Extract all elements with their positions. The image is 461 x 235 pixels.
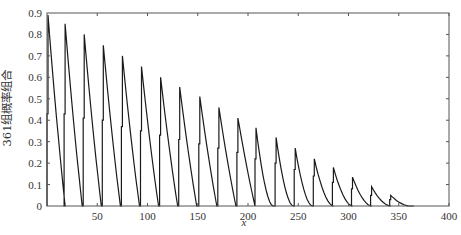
x-tick-label: 300	[340, 210, 357, 222]
x-tick-label: 400	[441, 210, 458, 222]
y-tick-label: 0.7	[28, 50, 42, 62]
chart-canvas: 50100150200250300350400 00.10.20.30.40.5…	[0, 0, 461, 235]
y-tick-label: 0.2	[28, 157, 42, 169]
sawtooth-line	[47, 15, 414, 206]
x-tick-label: 150	[190, 210, 207, 222]
x-tick-label: 250	[290, 210, 307, 222]
axes-frame	[47, 13, 449, 206]
x-tick-label: 50	[92, 210, 104, 222]
y-tick-label: 0.8	[28, 28, 42, 40]
y-tick-label: 0.5	[28, 93, 42, 105]
y-tick-label: 0.9	[28, 7, 42, 19]
y-tick-label: 0	[37, 200, 43, 212]
x-axis-label: x	[241, 216, 247, 228]
data-series-line	[47, 15, 414, 206]
y-tick-label: 0.4	[28, 114, 42, 126]
y-axis-label: 361组概率组合	[0, 70, 14, 147]
y-tick-label: 0.6	[28, 71, 42, 83]
y-tick-label: 0.3	[28, 136, 42, 148]
x-tick-label: 100	[139, 210, 156, 222]
y-tick-label: 0.1	[28, 179, 42, 191]
x-tick-label: 350	[391, 210, 408, 222]
